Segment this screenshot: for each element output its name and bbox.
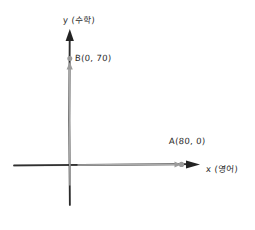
vector-to-point-b	[67, 62, 73, 185]
point-a-marker	[179, 162, 184, 167]
point-a-label: A(80, 0)	[169, 137, 206, 146]
coordinate-plane-drawing	[0, 0, 255, 230]
point-b-marker	[67, 56, 72, 61]
y-axis-arrowhead	[66, 29, 74, 41]
x-axis-arrowhead	[186, 160, 200, 168]
y-axis-label: y (수학)	[63, 16, 96, 25]
vector-to-point-a	[78, 161, 181, 167]
diagram-canvas: y (수학) x (영어) B(0, 70) A(80, 0)	[0, 0, 255, 230]
x-axis-label: x (영어)	[206, 165, 239, 174]
point-b-label: B(0, 70)	[75, 54, 112, 63]
